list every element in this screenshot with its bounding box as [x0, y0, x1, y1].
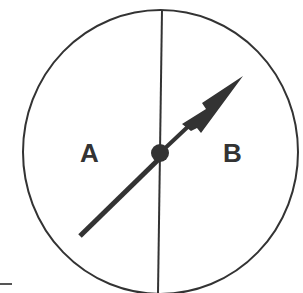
region-label-b: B — [223, 138, 242, 168]
center-pivot — [151, 144, 169, 162]
spinner-diagram: A B — [0, 0, 303, 293]
arrowhead-icon — [182, 76, 243, 133]
region-label-a: A — [80, 138, 99, 168]
